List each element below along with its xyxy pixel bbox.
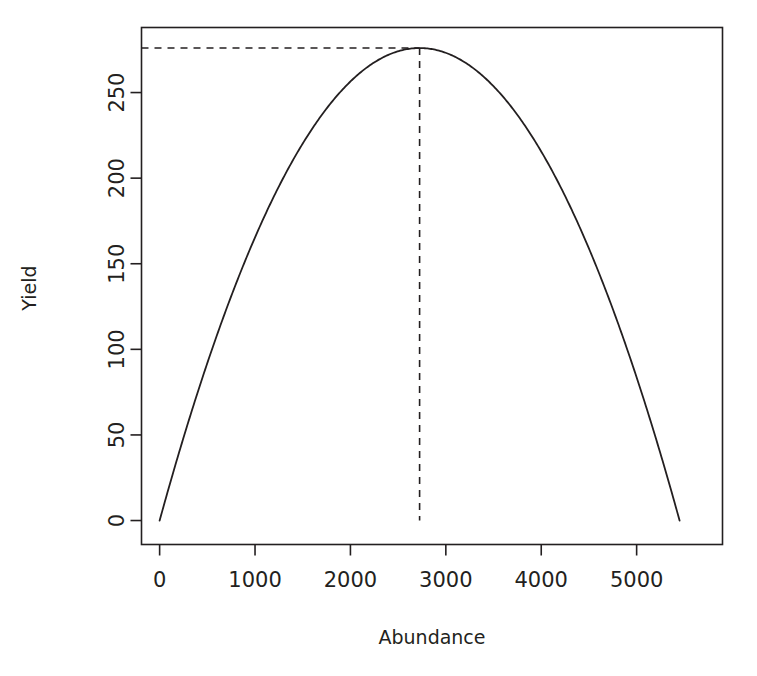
x-tick-label: 1000 [228, 568, 281, 592]
chart-canvas: 010002000300040005000 050100150200250 Ab… [0, 0, 757, 676]
x-tick-label: 0 [153, 568, 166, 592]
y-tick-label: 150 [106, 244, 130, 284]
abundance-axis-tick-labels: 010002000300040005000 [153, 568, 663, 592]
x-tick-label: 4000 [515, 568, 568, 592]
x-tick-label: 5000 [610, 568, 663, 592]
x-tick-label: 2000 [324, 568, 377, 592]
y-axis-title: Yield [18, 265, 40, 311]
yield-abundance-figure: 010002000300040005000 050100150200250 Ab… [0, 0, 757, 676]
y-tick-label: 0 [106, 514, 130, 527]
y-tick-label: 250 [106, 73, 130, 113]
yield-axis-ticks [131, 93, 142, 521]
y-tick-label: 200 [106, 158, 130, 198]
yield-axis-tick-labels: 050100150200250 [106, 73, 130, 528]
y-tick-label: 100 [106, 329, 130, 369]
abundance-axis-ticks [160, 545, 637, 556]
plot-area-border [142, 28, 723, 545]
x-tick-label: 3000 [419, 568, 472, 592]
y-tick-label: 50 [106, 422, 130, 449]
x-axis-title: Abundance [378, 626, 485, 648]
